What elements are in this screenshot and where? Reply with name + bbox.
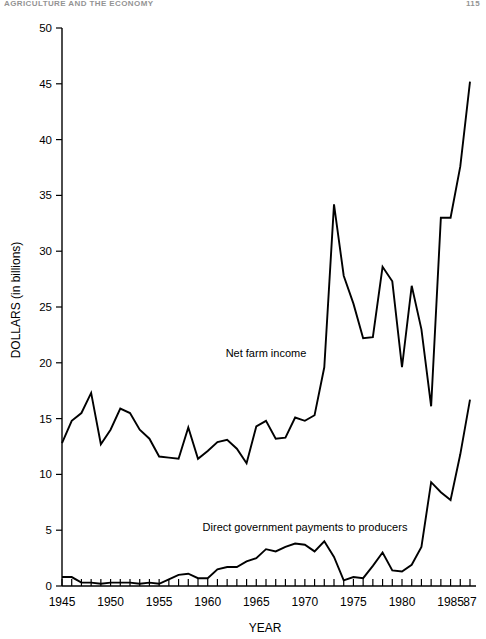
y-axis-tick-label: 20 <box>39 357 52 369</box>
y-axis-tick-label: 10 <box>39 468 52 480</box>
y-axis-tick-label: 0 <box>46 580 52 592</box>
y-axis-tick-label: 30 <box>39 245 52 257</box>
x-axis-tick-label: 1985 <box>437 595 464 609</box>
y-axis-tick-label: 5 <box>46 524 52 536</box>
y-axis-tick-label: 15 <box>39 413 52 425</box>
x-axis-tick-label: 1975 <box>340 595 367 609</box>
chart-container: 05101520253035404550 1945195019551960196… <box>0 0 486 639</box>
data-series-group <box>62 82 470 584</box>
line-chart: 05101520253035404550 1945195019551960196… <box>0 0 486 639</box>
series-line-government-payments <box>62 400 470 584</box>
series-annotations: Net farm incomeDirect government payment… <box>203 347 408 533</box>
y-axis: 05101520253035404550 <box>39 22 62 592</box>
series-label-net-farm-income: Net farm income <box>226 347 307 359</box>
series-label-government-payments: Direct government payments to producers <box>203 521 408 533</box>
x-axis-tick-label: 1945 <box>49 595 76 609</box>
x-axis-tick-label: 1970 <box>292 595 319 609</box>
x-axis-tick-label: 1950 <box>97 595 124 609</box>
x-axis-title: YEAR <box>249 621 282 635</box>
y-axis-tick-label: 40 <box>39 134 52 146</box>
x-axis-tick-label: 1955 <box>146 595 173 609</box>
series-line-net-farm-income <box>62 82 470 464</box>
y-axis-tick-label: 25 <box>39 301 52 313</box>
y-axis-title: DOLLARS (in billions) <box>9 242 23 359</box>
y-axis-tick-label: 50 <box>39 22 52 34</box>
x-axis-tick-label: 1980 <box>389 595 416 609</box>
y-axis-tick-label: 35 <box>39 189 52 201</box>
x-axis-tick-label: 1960 <box>194 595 221 609</box>
y-axis-tick-label: 45 <box>39 78 52 90</box>
x-axis-tick-label: 1965 <box>243 595 270 609</box>
x-axis-tick-label: 87 <box>463 595 477 609</box>
